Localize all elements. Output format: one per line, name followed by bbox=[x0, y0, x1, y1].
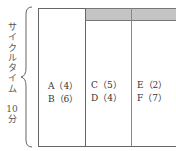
task-item: B（6） bbox=[48, 93, 78, 106]
curly-brace-icon bbox=[18, 6, 34, 148]
task-list: C（5） D（4） bbox=[91, 79, 122, 105]
cycle-time-value: 10 分 bbox=[6, 104, 18, 125]
task-item: F（7） bbox=[137, 92, 167, 105]
cycle-time-label: サ イ ク ル タ イ ム 10 分 bbox=[6, 22, 18, 125]
idle-time-shading bbox=[86, 8, 132, 21]
task-item: E（2） bbox=[137, 79, 167, 92]
label-char: タ bbox=[8, 63, 17, 73]
value-number: 10 bbox=[6, 104, 17, 114]
task-list: A（4） B（6） bbox=[48, 80, 78, 106]
value-unit: 分 bbox=[8, 114, 17, 124]
station-column-2: C（5） D（4） bbox=[85, 8, 132, 147]
label-char: イ bbox=[8, 32, 17, 42]
station-column-3: E（2） F（7） bbox=[131, 8, 176, 147]
label-char: ク bbox=[8, 43, 17, 53]
baseline bbox=[38, 146, 176, 147]
idle-time-shading bbox=[132, 8, 176, 21]
label-char: サ bbox=[8, 22, 17, 32]
label-char: イ bbox=[8, 73, 17, 83]
task-item: C（5） bbox=[91, 79, 122, 92]
task-item: D（4） bbox=[91, 92, 122, 105]
label-char: ム bbox=[8, 84, 17, 94]
station-column-1: A（4） B（6） bbox=[38, 8, 86, 147]
label-char: ル bbox=[8, 53, 17, 63]
task-item: A（4） bbox=[48, 80, 78, 93]
task-list: E（2） F（7） bbox=[137, 79, 167, 105]
